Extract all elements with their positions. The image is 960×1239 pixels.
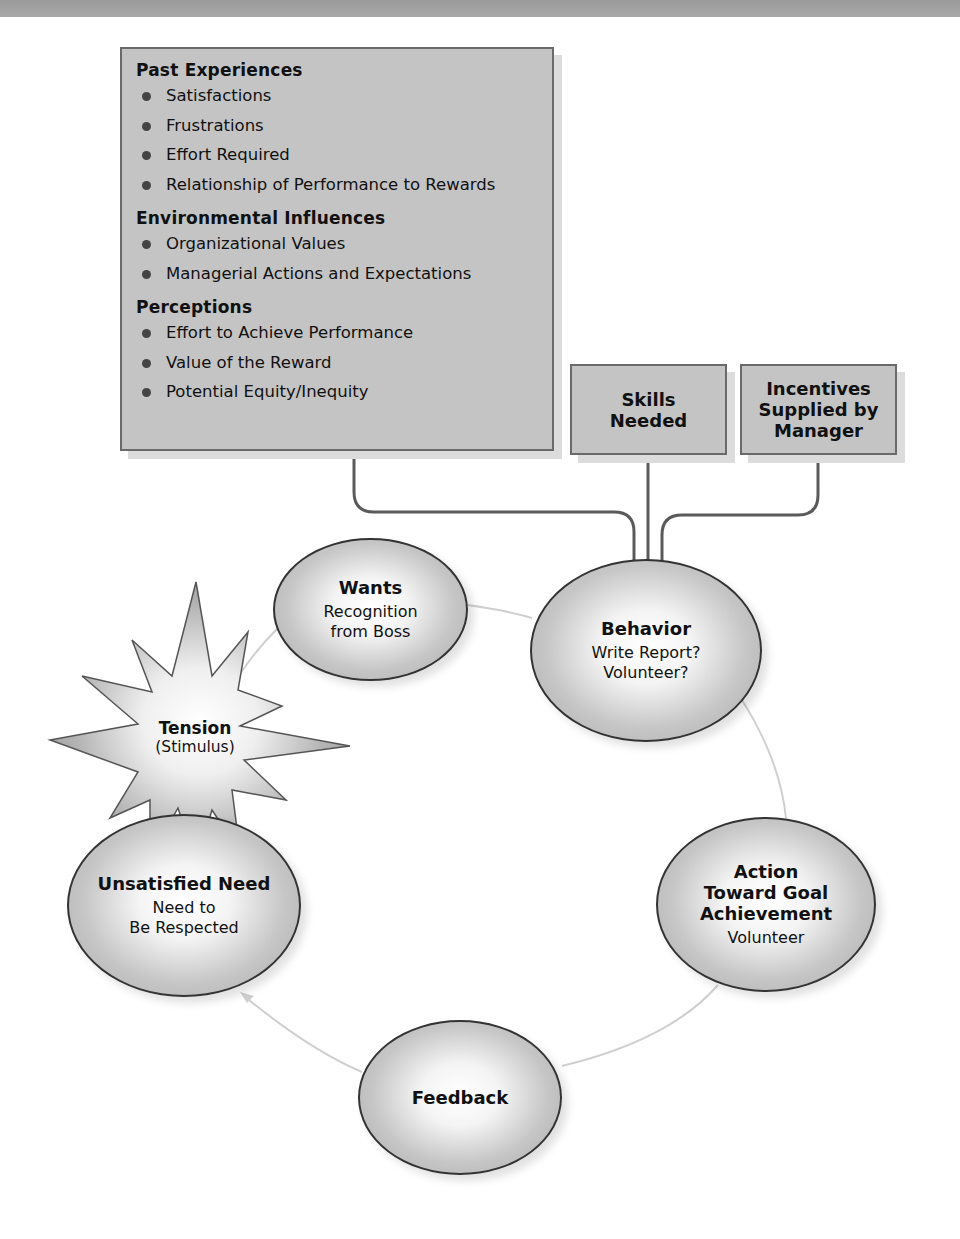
list-item: Satisfactions bbox=[136, 81, 552, 111]
bullet-icon bbox=[142, 240, 151, 249]
section-perceptions: Perceptions Effort to Achieve Performanc… bbox=[136, 296, 552, 407]
list-item: Managerial Actions and Expectations bbox=[136, 259, 552, 289]
connector-incentives bbox=[662, 455, 818, 582]
bullet-icon bbox=[142, 122, 151, 131]
tension-subtitle: (Stimulus) bbox=[130, 738, 260, 756]
node-title: Unsatisfied Need bbox=[98, 873, 271, 894]
skills-needed-box: Skills Needed bbox=[570, 364, 727, 455]
section-title: Past Experiences bbox=[136, 59, 552, 81]
incentives-line-2: Supplied by bbox=[759, 399, 879, 420]
list-item: Effort Required bbox=[136, 140, 552, 170]
list-item: Relationship of Performance to Rewards bbox=[136, 170, 552, 200]
incentives-line-3: Manager bbox=[759, 420, 879, 441]
node-action: Action Toward Goal Achievement Volunteer bbox=[656, 817, 876, 992]
node-behavior: Behavior Write Report? Volunteer? bbox=[530, 559, 762, 742]
node-wants: Wants Recognition from Boss bbox=[273, 538, 468, 681]
section-title: Perceptions bbox=[136, 296, 552, 318]
list-item: Effort to Achieve Performance bbox=[136, 318, 552, 348]
section-past-experiences: Past Experiences Satisfactions Frustrati… bbox=[136, 59, 552, 199]
skills-line-2: Needed bbox=[610, 410, 687, 431]
bullet-icon bbox=[142, 388, 151, 397]
list-item: Organizational Values bbox=[136, 229, 552, 259]
list-item: Frustrations bbox=[136, 111, 552, 141]
skills-line-1: Skills bbox=[610, 389, 687, 410]
node-title: Behavior bbox=[601, 618, 691, 639]
node-text: Write Report? Volunteer? bbox=[592, 643, 701, 683]
bullet-icon bbox=[142, 181, 151, 190]
bullet-icon bbox=[142, 359, 151, 368]
list-item: Value of the Reward bbox=[136, 348, 552, 378]
bullet-icon bbox=[142, 151, 151, 160]
influences-box: Past Experiences Satisfactions Frustrati… bbox=[120, 47, 554, 451]
node-feedback: Feedback bbox=[358, 1020, 562, 1175]
tension-title: Tension bbox=[130, 718, 260, 738]
tension-label: Tension (Stimulus) bbox=[130, 718, 260, 756]
node-title: Feedback bbox=[412, 1087, 509, 1108]
bullet-icon bbox=[142, 270, 151, 279]
incentives-box: Incentives Supplied by Manager bbox=[740, 364, 897, 455]
node-title: Action Toward Goal Achievement bbox=[700, 861, 832, 924]
list-item: Potential Equity/Inequity bbox=[136, 377, 552, 407]
node-title: Wants bbox=[339, 577, 403, 598]
node-text: Need to Be Respected bbox=[129, 898, 239, 938]
incentives-line-1: Incentives bbox=[759, 378, 879, 399]
node-text: Volunteer bbox=[728, 928, 805, 948]
section-title: Environmental Influences bbox=[136, 207, 552, 229]
section-environmental-influences: Environmental Influences Organizational … bbox=[136, 207, 552, 288]
bullet-icon bbox=[142, 329, 151, 338]
bullet-icon bbox=[142, 92, 151, 101]
node-unsatisfied-need: Unsatisfied Need Need to Be Respected bbox=[67, 814, 301, 997]
node-text: Recognition from Boss bbox=[323, 602, 417, 642]
